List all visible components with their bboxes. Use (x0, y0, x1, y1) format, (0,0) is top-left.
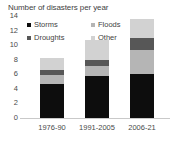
legend-label: Storms (34, 20, 58, 29)
bar-group-1976-90 (40, 58, 64, 118)
legend-item-droughts: Droughts (27, 33, 64, 42)
bar-segment-floods (130, 50, 154, 75)
legend-label: Other (98, 33, 117, 42)
chart-legend: Storms Floods Droughts Other (27, 20, 157, 46)
bar-segment-storms (130, 74, 154, 118)
bar-segment-storms (40, 84, 64, 118)
x-tick-label-1991-2005: 1991-2005 (79, 123, 115, 132)
x-tick-label-1976-90: 1976-90 (38, 123, 66, 132)
legend-swatch-icon (91, 36, 95, 40)
legend-swatch-icon (27, 23, 31, 27)
legend-swatch-icon (27, 36, 31, 40)
bar-segment-other (40, 58, 64, 70)
x-tick-label-2006-21: 2006-21 (128, 123, 156, 132)
bar-segment-storms (85, 76, 109, 118)
legend-label: Droughts (34, 33, 64, 42)
legend-item-floods: Floods (91, 20, 121, 29)
bar-group-1991-2005 (85, 40, 109, 118)
bar-segment-floods (85, 66, 109, 76)
legend-item-storms: Storms (27, 20, 58, 29)
bar-stack (85, 40, 109, 118)
legend-swatch-icon (91, 23, 95, 27)
legend-item-other: Other (91, 33, 117, 42)
bar-segment-floods (40, 75, 64, 84)
bar-stack (40, 58, 64, 118)
chart-container: Number of disasters per year 14 12 10 8 … (0, 0, 172, 141)
legend-label: Floods (98, 20, 121, 29)
